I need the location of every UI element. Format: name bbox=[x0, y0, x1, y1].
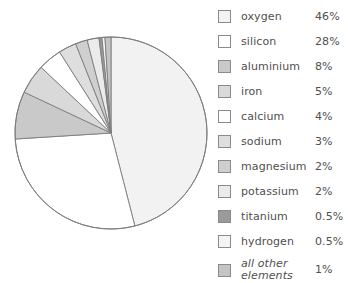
legend-swatch-icon bbox=[218, 10, 231, 23]
legend-item-label: all other elements bbox=[241, 258, 315, 282]
legend-item[interactable]: magnesium2% bbox=[215, 154, 348, 179]
pie-chart-svg: oxygen 46%silicon 28%aluminium 8%iron 5%… bbox=[0, 0, 215, 275]
legend-item[interactable]: iron5% bbox=[215, 79, 348, 104]
legend-swatch-icon bbox=[218, 185, 231, 198]
legend-item-value: 0.5% bbox=[315, 211, 343, 223]
legend-item-value: 0.5% bbox=[315, 236, 343, 248]
legend-item[interactable]: titanium0.5% bbox=[215, 204, 348, 229]
legend-swatch-icon bbox=[218, 60, 231, 73]
legend-item[interactable]: oxygen46% bbox=[215, 4, 348, 29]
pie-chart-panel: oxygen 46%silicon 28%aluminium 8%iron 5%… bbox=[0, 0, 215, 275]
legend-item-label: potassium bbox=[241, 186, 315, 198]
legend-item-value: 5% bbox=[315, 86, 333, 98]
legend-swatch-icon bbox=[218, 264, 231, 277]
legend-item-label: calcium bbox=[241, 111, 315, 123]
legend-item-label: titanium bbox=[241, 211, 315, 223]
legend-item-label: iron bbox=[241, 86, 315, 98]
legend-swatch-icon bbox=[218, 135, 231, 148]
legend-item-value: 2% bbox=[315, 161, 333, 173]
legend-swatch-icon bbox=[218, 110, 231, 123]
legend-item[interactable]: calcium4% bbox=[215, 104, 348, 129]
legend-swatch-icon bbox=[218, 235, 231, 248]
legend-item-label: sodium bbox=[241, 136, 315, 148]
legend-item-value: 1% bbox=[315, 264, 333, 276]
legend-item[interactable]: all other elements1% bbox=[215, 254, 348, 283]
legend-item[interactable]: silicon28% bbox=[215, 29, 348, 54]
legend-item-label: silicon bbox=[241, 36, 315, 48]
legend-item[interactable]: potassium2% bbox=[215, 179, 348, 204]
legend-item-value: 28% bbox=[315, 36, 340, 48]
legend-item[interactable]: sodium3% bbox=[215, 129, 348, 154]
legend-item[interactable]: hydrogen0.5% bbox=[215, 229, 348, 254]
legend-item-value: 3% bbox=[315, 136, 333, 148]
legend-swatch-icon bbox=[218, 210, 231, 223]
legend-item-label: hydrogen bbox=[241, 236, 315, 248]
legend-item-value: 2% bbox=[315, 186, 333, 198]
legend-item-value: 4% bbox=[315, 111, 333, 123]
chart-legend: oxygen46%silicon28%aluminium8%iron5%calc… bbox=[215, 0, 348, 275]
legend-item-label: aluminium bbox=[241, 61, 315, 73]
legend-swatch-icon bbox=[218, 85, 231, 98]
legend-swatch-icon bbox=[218, 160, 231, 173]
legend-item-value: 8% bbox=[315, 61, 333, 73]
legend-item[interactable]: aluminium8% bbox=[215, 54, 348, 79]
legend-item-label: oxygen bbox=[241, 11, 315, 23]
legend-swatch-icon bbox=[218, 35, 231, 48]
legend-item-label: magnesium bbox=[241, 161, 315, 173]
legend-item-value: 46% bbox=[315, 11, 340, 23]
